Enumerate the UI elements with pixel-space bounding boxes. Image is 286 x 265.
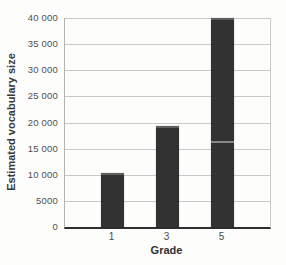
gridline [65, 123, 270, 124]
x-tick-label: 1 [102, 231, 122, 242]
x-tick-label: 3 [157, 231, 177, 242]
y-tick-label: 25 000 [0, 90, 58, 102]
bar-grade-1 [101, 173, 124, 227]
y-tick-label: 30 000 [0, 64, 58, 76]
gridline [65, 18, 270, 19]
bar-grade-3 [156, 126, 179, 227]
y-tick-label: 5000 [0, 195, 58, 207]
vocabulary-bar-chart: Estimated vocabulary size 0500010 00015 … [0, 0, 286, 265]
y-tick-label: 20 000 [0, 117, 58, 129]
y-tick-label: 10 000 [0, 169, 58, 181]
bar-grade-5 [211, 18, 234, 227]
y-tick-label: 35 000 [0, 38, 58, 50]
y-tick-label: 15 000 [0, 143, 58, 155]
gridline [65, 44, 270, 45]
x-tick-label: 5 [212, 231, 232, 242]
y-tick-label: 40 000 [0, 12, 58, 24]
gridline [65, 96, 270, 97]
y-tick-label: 0 [0, 221, 58, 233]
scan-artifact-line [211, 141, 234, 143]
plot-area [64, 18, 271, 229]
gridline [65, 70, 270, 71]
x-axis-title: Grade [64, 244, 269, 256]
